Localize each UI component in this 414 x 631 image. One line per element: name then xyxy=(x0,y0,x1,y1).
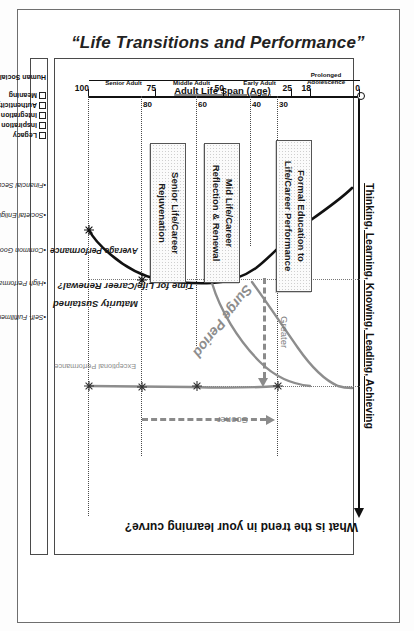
bullet-financial-security: •Financial Security xyxy=(0,181,46,189)
checkbox-icon[interactable] xyxy=(39,112,46,119)
maturity-sustained-label: Maturity Sustained xyxy=(53,299,138,310)
box-formal-education-line2: Life/Career Performance xyxy=(283,161,294,271)
stage-line-2: Adolescence xyxy=(307,78,345,85)
checklist-header: Human Social System xyxy=(0,73,46,81)
rotated-slide-canvas: “Life Transitions and Performance” Think… xyxy=(28,36,378,596)
time-for-renewal-line2: Life/Career xyxy=(104,281,154,292)
bullet-common-good: •Common Good xyxy=(0,246,46,254)
time-for-renewal-line1: Time for xyxy=(157,281,194,292)
checkbox-icon[interactable] xyxy=(39,102,46,109)
checklist-label-1: Authenticity xyxy=(0,102,37,109)
checklist-header-line1: Human Social xyxy=(0,74,46,81)
checklist-item-legacy[interactable]: Legacy xyxy=(13,131,46,139)
checkbox-icon[interactable] xyxy=(39,132,46,139)
bullet-2-line1: •Common xyxy=(15,247,46,254)
time-for-renewal-label: Time for Life/Career Renewal? xyxy=(57,281,194,292)
checkbox-icon[interactable] xyxy=(39,92,46,99)
box-formal-education-line1: Formal Education to xyxy=(296,170,307,262)
marker-point-3 xyxy=(137,382,147,392)
exceptional-line1: Exceptional xyxy=(98,362,136,371)
bullet-band: Human Social System Meaning Authenticity… xyxy=(30,58,48,555)
bullet-0-line2: Security xyxy=(0,182,14,189)
greater-label: Greater xyxy=(279,316,290,348)
bullet-societal-enlightenment: •Societal Enlightenment xyxy=(0,211,46,219)
checklist-label-0: Meaning xyxy=(9,92,37,99)
box-senior-life-line1: Senior Life/Career xyxy=(170,172,181,254)
box-senior-life: Senior Life/Career Rejuvenation xyxy=(150,143,186,283)
page-title: “Life Transitions and Performance” xyxy=(38,33,398,53)
right-question-label: What is the trend in your learning curve… xyxy=(58,520,358,534)
maturity-line2: Sustained xyxy=(53,299,98,310)
bullet-self-fulfillment: •Self- Fulfillment xyxy=(0,313,46,321)
bullet-1-line2: Enlightenment xyxy=(0,212,17,219)
checklist-item-integration[interactable]: Integration xyxy=(1,111,46,119)
bullet-2-line2: Good xyxy=(0,247,13,254)
checklist-label-4: Legacy xyxy=(13,132,37,139)
checklist-label-2: Integration xyxy=(1,112,37,119)
slide-page: “Life Transitions and Performance” Think… xyxy=(0,0,414,631)
checklist-item-inspiration[interactable]: Inspiration xyxy=(1,121,46,129)
checklist-label-3: Inspiration xyxy=(1,122,37,129)
stage-label-prolonged-adolescence: Prolonged Adolescence xyxy=(296,71,356,85)
box-mid-life-line1: Mid Life/Career xyxy=(224,179,235,248)
stage-line-1: Prolonged xyxy=(311,71,342,78)
exceptional-performance-label: Exceptional Performance xyxy=(54,361,136,370)
box-mid-life-line2: Reflection & Renewal xyxy=(211,165,222,262)
maturity-line1: Maturity xyxy=(101,299,138,310)
box-formal-education: Formal Education to Life/Career Performa… xyxy=(276,140,312,292)
time-for-renewal-line3: Renewal? xyxy=(57,281,101,292)
box-senior-life-line2: Rejuvenation xyxy=(157,183,168,243)
checklist-item-meaning[interactable]: Meaning xyxy=(9,91,46,99)
stage-label-senior-adult: Senior Adult xyxy=(94,79,154,86)
greater-arrow xyxy=(263,278,266,378)
bullet-4-line2: Fulfillment xyxy=(0,314,27,321)
checkbox-icon[interactable] xyxy=(39,122,46,129)
sooner-label: Sooner xyxy=(217,415,248,426)
x-axis-banner: Thinking, Learning, Knowing, Leading, Ac… xyxy=(364,96,376,516)
box-mid-life: Mid Life/Career Reflection & Renewal xyxy=(204,143,240,283)
stage-label-early-adult: Early Adult xyxy=(230,79,290,86)
marker-point-1 xyxy=(273,381,283,391)
average-line2: Performance xyxy=(50,246,102,256)
bullet-1-line1: •Societal xyxy=(19,212,46,219)
bullet-high-performance: •High Performance xyxy=(0,279,46,287)
marker-point-2 xyxy=(192,381,202,391)
bullet-0-line1: •Financial xyxy=(16,182,46,189)
bullet-4-line1: •Self- xyxy=(29,314,46,321)
plot-area: 0 18 25 50 75 100 Prolonged Adolescence … xyxy=(88,96,360,516)
stage-label-middle-adult: Middle Adult xyxy=(162,79,222,86)
bullet-3-line1: •High xyxy=(29,280,46,287)
average-performance-label: Average Performance xyxy=(50,246,138,256)
tick-label-100: 100 xyxy=(63,83,89,93)
average-line1: Average xyxy=(104,246,138,256)
checklist-item-authenticity[interactable]: Authenticity xyxy=(0,101,46,109)
bullet-3-line2: Performance xyxy=(0,280,27,287)
exceptional-line2: Performance xyxy=(54,362,96,371)
